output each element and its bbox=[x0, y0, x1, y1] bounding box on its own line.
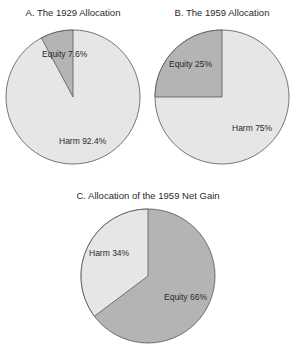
pie-chart-a: A. The 1929 Allocation Equity 7.6% Harm … bbox=[6, 7, 140, 164]
pie-a-title: A. The 1929 Allocation bbox=[26, 7, 121, 18]
pie-charts-figure: A. The 1929 Allocation Equity 7.6% Harm … bbox=[0, 0, 295, 358]
pie-b-equity-label: Equity 25% bbox=[169, 59, 212, 69]
pie-a-harm-label: Harm 92.4% bbox=[59, 136, 107, 146]
pie-a-equity-label: Equity 7.6% bbox=[42, 49, 88, 59]
pie-c-harm-label: Harm 34% bbox=[89, 248, 130, 258]
pie-b-harm-label: Harm 75% bbox=[232, 123, 273, 133]
pie-chart-c: C. Allocation of the 1959 Net Gain Harm … bbox=[76, 190, 219, 343]
pie-c-title: C. Allocation of the 1959 Net Gain bbox=[76, 190, 219, 201]
pie-b-title: B. The 1959 Allocation bbox=[175, 7, 270, 18]
pie-c-equity-label: Equity 66% bbox=[164, 292, 207, 302]
pie-chart-b: B. The 1959 Allocation Equity 25% Harm 7… bbox=[155, 7, 289, 164]
